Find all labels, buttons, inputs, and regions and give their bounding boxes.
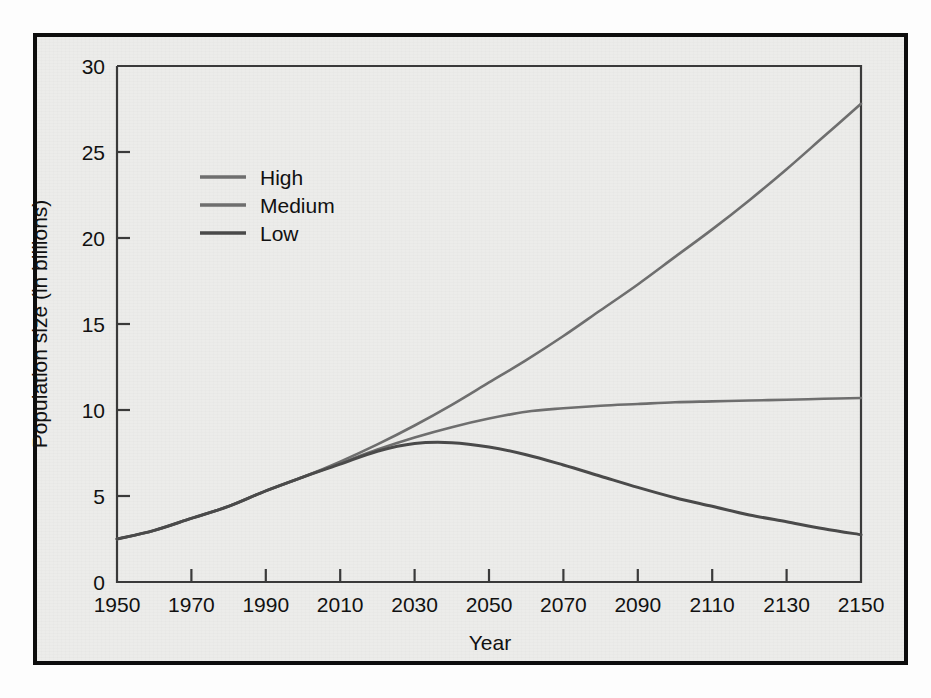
legend-label-low: Low xyxy=(260,222,299,245)
x-tick-label: 2110 xyxy=(690,593,735,616)
x-tick-label: 2150 xyxy=(838,593,885,616)
x-tick-label: 2030 xyxy=(391,593,438,616)
legend-label-high: High xyxy=(260,166,303,189)
y-axis-title: Population size (in billions) xyxy=(28,200,51,449)
population-projection-chart: 1950197019902010203020502070209021102130… xyxy=(0,0,931,698)
y-tick-label: 30 xyxy=(82,55,105,78)
x-tick-label: 2010 xyxy=(317,593,364,616)
y-tick-label: 10 xyxy=(82,399,105,422)
x-tick-label: 1990 xyxy=(242,593,289,616)
x-tick-label: 2090 xyxy=(614,593,661,616)
series-line-medium xyxy=(117,398,861,539)
figure-page: 1950197019902010203020502070209021102130… xyxy=(0,0,931,698)
series-group xyxy=(117,104,861,539)
y-tick-label: 25 xyxy=(82,141,105,164)
x-axis-title: Year xyxy=(469,631,511,654)
x-axis-ticks: 1950197019902010203020502070209021102130… xyxy=(94,569,885,616)
chart-legend: HighMediumLow xyxy=(200,166,335,245)
series-line-low xyxy=(117,442,861,539)
x-tick-label: 2130 xyxy=(763,593,810,616)
y-tick-label: 15 xyxy=(82,313,105,336)
y-tick-label: 0 xyxy=(93,571,105,594)
y-tick-label: 5 xyxy=(93,485,105,508)
x-tick-label: 2050 xyxy=(466,593,513,616)
x-tick-label: 1970 xyxy=(168,593,215,616)
plot-axes xyxy=(117,66,861,582)
x-tick-label: 2070 xyxy=(540,593,587,616)
y-tick-label: 20 xyxy=(82,227,105,250)
legend-label-medium: Medium xyxy=(260,194,335,217)
y-axis-ticks: 051015202530 xyxy=(82,55,130,594)
series-line-high xyxy=(117,104,861,539)
x-tick-label: 1950 xyxy=(94,593,141,616)
